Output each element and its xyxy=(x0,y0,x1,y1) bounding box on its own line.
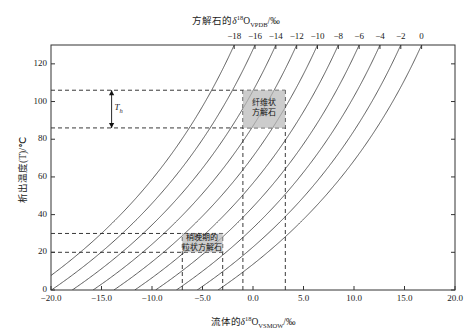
xtick-label-7: 15.0 xyxy=(392,293,418,303)
plot-background xyxy=(51,45,455,290)
ytick-label-0: 0 xyxy=(25,284,47,294)
xtick-label-6: 10.0 xyxy=(341,293,367,303)
top-tick-label-5: −8 xyxy=(327,31,349,41)
th-annotation-label: Th xyxy=(115,102,123,114)
top-axis-title: 方解石的δ18OVPDB/‰ xyxy=(192,13,279,28)
top-tick-label-9: 0 xyxy=(411,31,433,41)
xtick-label-3: −5.0 xyxy=(190,293,216,303)
top-tick-label-0: −18 xyxy=(223,31,245,41)
x-axis-title: 流体的δ18OVSMOW/‰ xyxy=(211,314,296,329)
top-tick-label-8: −2 xyxy=(390,31,412,41)
ytick-label-5: 100 xyxy=(25,96,47,106)
y-axis-title: 析出温度(T)/℃ xyxy=(15,110,29,230)
xtick-label-5: 5.0 xyxy=(291,293,317,303)
top-tick-label-4: −10 xyxy=(307,31,329,41)
top-tick-label-6: −6 xyxy=(348,31,370,41)
top-tick-label-2: −14 xyxy=(265,31,287,41)
top-tick-label-1: −16 xyxy=(244,31,266,41)
xtick-label-1: −15.0 xyxy=(89,293,115,303)
ytick-label-6: 120 xyxy=(25,58,47,68)
chart-canvas xyxy=(0,0,472,335)
top-tick-label-3: −12 xyxy=(286,31,308,41)
granular-calcite-label: 稍晚期的粒状方解石 xyxy=(179,233,225,253)
fibrous-calcite-label: 纤维状方解石 xyxy=(243,98,285,118)
ytick-label-1: 20 xyxy=(25,246,47,256)
xtick-label-8: 20.0 xyxy=(442,293,468,303)
xtick-label-0: −20.0 xyxy=(38,293,64,303)
xtick-label-4: 0.0 xyxy=(240,293,266,303)
xtick-label-2: −10.0 xyxy=(139,293,165,303)
top-tick-label-7: −4 xyxy=(369,31,391,41)
isotope-fractionation-chart: −20.0−15.0−10.0−5.00.05.010.015.020.0020… xyxy=(0,0,472,335)
